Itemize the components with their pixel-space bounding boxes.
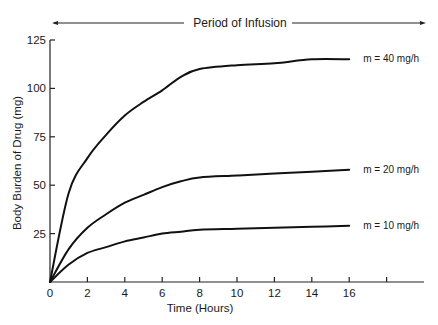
arrowhead-left-icon <box>52 21 58 25</box>
x-tick-label: 10 <box>231 287 244 299</box>
x-tick-label: 14 <box>305 287 318 299</box>
x-ticks: 0246810121416 <box>47 277 387 299</box>
arrowhead-right-icon <box>420 21 426 25</box>
infusion-period-annotation: Period of Infusion <box>52 16 426 30</box>
y-tick-label: 75 <box>33 131 46 143</box>
annotation-label: Period of Infusion <box>193 16 286 30</box>
y-tick-label: 50 <box>33 179 46 191</box>
y-tick-label: 125 <box>27 34 46 46</box>
y-tick-label: 100 <box>27 82 46 94</box>
series-label: m = 10 mg/h <box>363 220 419 231</box>
series-line-2 <box>50 170 349 282</box>
x-tick-label: 6 <box>159 287 165 299</box>
y-ticks: 255075100125 <box>27 34 55 240</box>
series-group: m = 40 mg/hm = 20 mg/hm = 10 mg/h <box>50 53 419 282</box>
y-axis-title: Body Burden of Drug (mg) <box>11 96 23 230</box>
x-tick-label: 4 <box>122 287 129 299</box>
chart: Period of Infusion 255075100125 02468101… <box>0 0 438 325</box>
series-line-3 <box>50 226 349 282</box>
series-line-1 <box>50 59 349 282</box>
x-tick-label: 12 <box>268 287 281 299</box>
series-label: m = 20 mg/h <box>363 164 419 175</box>
series-label: m = 40 mg/h <box>363 53 419 64</box>
y-tick-label: 25 <box>33 228 46 240</box>
x-tick-label: 2 <box>84 287 90 299</box>
x-axis-title: Time (Hours) <box>167 302 234 314</box>
x-tick-label: 16 <box>343 287 356 299</box>
x-tick-label: 0 <box>47 287 53 299</box>
x-tick-label: 8 <box>196 287 202 299</box>
